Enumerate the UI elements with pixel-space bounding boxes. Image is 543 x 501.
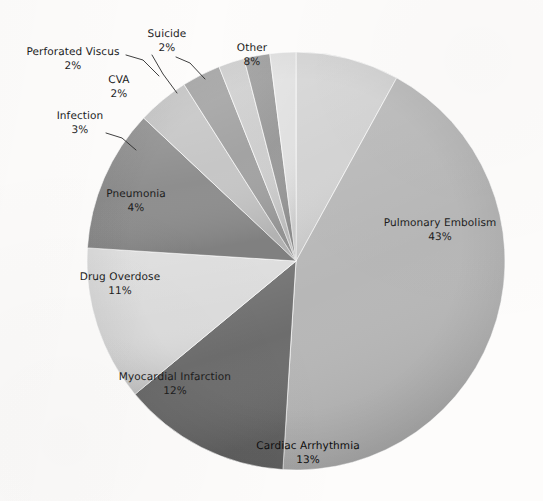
slice-label-cva: CVA 2% <box>92 74 146 101</box>
slice-label-pulmonary-embolism-name: Pulmonary Embolism <box>384 217 497 229</box>
slice-label-pneumonia: Pneumonia 4% <box>96 188 176 215</box>
slice-label-drug-overdose-name: Drug Overdose <box>80 271 160 283</box>
slice-label-perforated-viscus: Perforated Viscus 2% <box>22 46 124 73</box>
slice-label-other-name: Other <box>237 42 267 54</box>
slice-label-cardiac-arrhythmia-name: Cardiac Arrhythmia <box>256 440 360 452</box>
slice-label-pulmonary-embolism: Pulmonary Embolism 43% <box>380 217 500 244</box>
slice-label-myocardial-infarction-name: Myocardial Infarction <box>119 371 231 383</box>
slice-label-cardiac-arrhythmia: Cardiac Arrhythmia 13% <box>246 440 370 467</box>
slice-label-infection-name: Infection <box>57 110 104 122</box>
slice-label-suicide: Suicide 2% <box>136 28 198 55</box>
slice-label-pulmonary-embolism-pct: 43% <box>380 231 500 245</box>
slice-label-drug-overdose-pct: 11% <box>74 285 166 299</box>
slice-label-drug-overdose: Drug Overdose 11% <box>74 271 166 298</box>
slice-label-myocardial-infarction-pct: 12% <box>113 385 237 399</box>
slice-label-infection: Infection 3% <box>44 110 116 137</box>
pie-chart-figure: Other 8% Pulmonary Embolism 43% Cardiac … <box>0 0 543 501</box>
slice-label-cva-name: CVA <box>108 74 129 86</box>
slice-label-perforated-viscus-name: Perforated Viscus <box>26 46 119 58</box>
slice-label-other-pct: 8% <box>210 56 294 70</box>
slice-label-suicide-name: Suicide <box>148 28 187 40</box>
slice-label-pneumonia-name: Pneumonia <box>106 188 165 200</box>
slice-label-cardiac-arrhythmia-pct: 13% <box>246 454 370 468</box>
slice-label-pneumonia-pct: 4% <box>96 202 176 216</box>
slice-label-cva-pct: 2% <box>92 88 146 102</box>
leader-line-cva <box>152 55 177 93</box>
slice-label-myocardial-infarction: Myocardial Infarction 12% <box>113 371 237 398</box>
pie-chart-canvas <box>0 0 543 501</box>
slice-label-infection-pct: 3% <box>44 124 116 138</box>
pie-slices <box>87 52 505 470</box>
slice-label-perforated-viscus-pct: 2% <box>22 60 124 74</box>
slice-label-other: Other 8% <box>210 42 294 69</box>
slice-label-suicide-pct: 2% <box>136 42 198 56</box>
